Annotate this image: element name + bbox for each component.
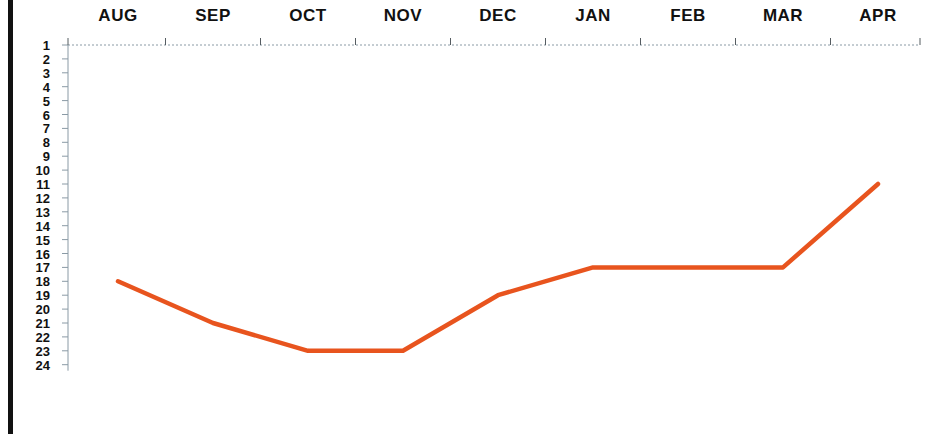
series-line bbox=[118, 184, 878, 351]
y-axis bbox=[62, 45, 68, 371]
y-axis-tick-label: 9 bbox=[22, 149, 50, 164]
data-series-group bbox=[118, 184, 878, 351]
y-axis-tick-label: 12 bbox=[22, 190, 50, 205]
y-axis-tick-label: 1 bbox=[22, 38, 50, 53]
x-axis-tick-label: DEC bbox=[479, 6, 516, 26]
x-axis-tick-label: NOV bbox=[384, 6, 422, 26]
y-axis-tick-label: 15 bbox=[22, 232, 50, 247]
y-axis-tick-label: 18 bbox=[22, 274, 50, 289]
y-axis-tick-label: 13 bbox=[22, 204, 50, 219]
y-axis-tick-label: 6 bbox=[22, 107, 50, 122]
y-axis-tick-label: 7 bbox=[22, 121, 50, 136]
x-axis-tick-label: OCT bbox=[289, 6, 326, 26]
y-axis-tick-label: 3 bbox=[22, 65, 50, 80]
y-axis-tick-label: 8 bbox=[22, 135, 50, 150]
y-axis-tick-label: 10 bbox=[22, 163, 50, 178]
y-axis-tick-label: 21 bbox=[22, 316, 50, 331]
x-axis bbox=[68, 38, 920, 45]
y-axis-tick-label: 19 bbox=[22, 288, 50, 303]
y-axis-tick-label: 17 bbox=[22, 260, 50, 275]
y-axis-tick-label: 4 bbox=[22, 79, 50, 94]
y-axis-tick-label: 11 bbox=[22, 177, 50, 192]
y-axis-tick-label: 23 bbox=[22, 343, 50, 358]
chart-plot-svg bbox=[0, 0, 947, 434]
line-chart: AUGSEPOCTNOVDECJANFEBMARAPR 123456789101… bbox=[0, 0, 947, 434]
y-axis-tick-label: 24 bbox=[22, 357, 50, 372]
x-axis-tick-label: AUG bbox=[98, 6, 137, 26]
x-axis-tick-label: APR bbox=[859, 6, 896, 26]
x-axis-tick-label: SEP bbox=[195, 6, 231, 26]
y-axis-tick-label: 22 bbox=[22, 329, 50, 344]
y-axis-tick-label: 5 bbox=[22, 93, 50, 108]
y-axis-tick-label: 14 bbox=[22, 218, 50, 233]
x-axis-tick-label: FEB bbox=[670, 6, 706, 26]
x-axis-tick-label: MAR bbox=[763, 6, 803, 26]
y-axis-tick-label: 16 bbox=[22, 246, 50, 261]
chart-page: AUGSEPOCTNOVDECJANFEBMARAPR 123456789101… bbox=[0, 0, 947, 434]
y-axis-tick-label: 2 bbox=[22, 51, 50, 66]
y-axis-tick-label: 20 bbox=[22, 302, 50, 317]
x-axis-tick-label: JAN bbox=[575, 6, 611, 26]
